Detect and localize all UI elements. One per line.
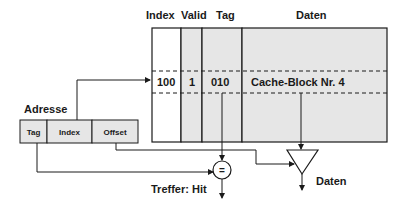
address-label: Adresse: [24, 103, 67, 115]
row-data-value: Cache-Block Nr. 4: [251, 76, 345, 88]
header-data: Daten: [296, 9, 327, 21]
row-valid-value: 1: [189, 76, 195, 88]
hit-label: Treffer: Hit: [151, 183, 207, 195]
row-tag-value: 010: [211, 76, 229, 88]
address-field-tag-label: Tag: [27, 128, 41, 137]
tag-line: [37, 143, 213, 172]
cache-table: Index Valid Tag Daten 100 1 010 Cache-Bl…: [146, 9, 387, 142]
comparator: =: [213, 161, 231, 179]
row-index-value: 100: [157, 76, 175, 88]
data-selector-icon: [287, 150, 318, 174]
header-valid: Valid: [181, 9, 207, 21]
data-output-label: Daten: [316, 175, 347, 187]
equals-icon: =: [219, 165, 225, 176]
address-field-index-label: Index: [59, 128, 80, 137]
index-line: [77, 80, 150, 120]
header-tag: Tag: [216, 9, 235, 21]
address-field-offset-label: Offset: [103, 128, 126, 137]
offset-line: [116, 143, 294, 164]
header-index: Index: [146, 9, 176, 21]
address-box: Tag Index Offset: [20, 120, 138, 143]
